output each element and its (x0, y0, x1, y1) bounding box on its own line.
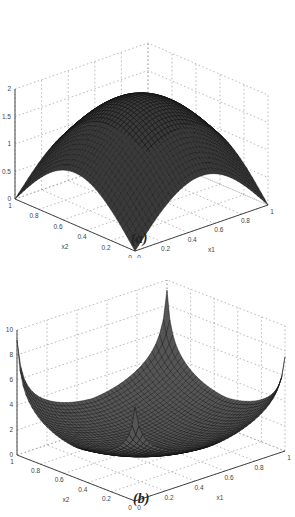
z-tick-label: 8 (9, 351, 13, 358)
x1-tick-label: 0.4 (188, 236, 197, 243)
surface-plot-b-canvas: 024681000.20.40.60.8100.20.40.60.81x2x1S… (0, 258, 295, 517)
x2-tick-label: 0.8 (29, 212, 38, 219)
x1-tick-label: 0.6 (214, 226, 223, 233)
z-tick-label: 6 (9, 376, 13, 383)
z-tick-label: 2 (7, 85, 11, 92)
z-tick-label: 1.5 (2, 113, 11, 120)
z-tick-label: 0 (9, 451, 13, 458)
x1-tick-label: 0.8 (241, 217, 250, 224)
x1-tick-label: 1 (270, 208, 274, 215)
z-tick-label: 4 (9, 401, 13, 408)
x2-tick-label: 0 (128, 504, 132, 511)
surface-mesh (17, 290, 285, 457)
x2-tick-label: 0.2 (101, 244, 110, 251)
x2-axis-label: x2 (62, 243, 69, 250)
z-tick-label: 2 (9, 426, 13, 433)
x2-tick-label: 0.4 (77, 233, 86, 240)
z-tick-label: 0 (7, 195, 11, 202)
caption-a: (a) (131, 231, 147, 247)
x2-tick-label: 0.4 (78, 486, 87, 493)
z-tick-label: 0.5 (2, 168, 11, 175)
x2-tick-label: 0.6 (53, 223, 62, 230)
x2-axis-label: x2 (63, 496, 70, 503)
x1-tick-label: 0.2 (161, 245, 170, 252)
x1-tick-label: 0.4 (194, 484, 203, 491)
z-tick-label: 10 (6, 326, 14, 333)
x1-axis-label: x1 (208, 246, 215, 253)
surface-plot-a: 00.511.5200.20.40.60.8100.20.40.60.81x2x… (0, 0, 295, 258)
x1-axis-label: x1 (217, 494, 224, 501)
x1-tick-label: 0.8 (254, 464, 263, 471)
x2-tick-label: 0.2 (102, 495, 111, 502)
x1-tick-label: 0.2 (164, 494, 173, 501)
z-tick-label: 1 (7, 140, 11, 147)
x2-tick-label: 0.8 (31, 467, 40, 474)
caption-b: (b) (133, 491, 149, 507)
x2-tick-label: 1 (10, 458, 14, 465)
x2-tick-label: 1 (8, 202, 12, 209)
x1-tick-label: 0.6 (224, 474, 233, 481)
surface-plot-b: 024681000.20.40.60.8100.20.40.60.81x2x1S… (0, 258, 295, 517)
surface-plot-a-canvas: 00.511.5200.20.40.60.8100.20.40.60.81x2x… (0, 0, 295, 258)
x1-tick-label: 1 (287, 454, 291, 461)
x2-tick-label: 0.6 (55, 476, 64, 483)
